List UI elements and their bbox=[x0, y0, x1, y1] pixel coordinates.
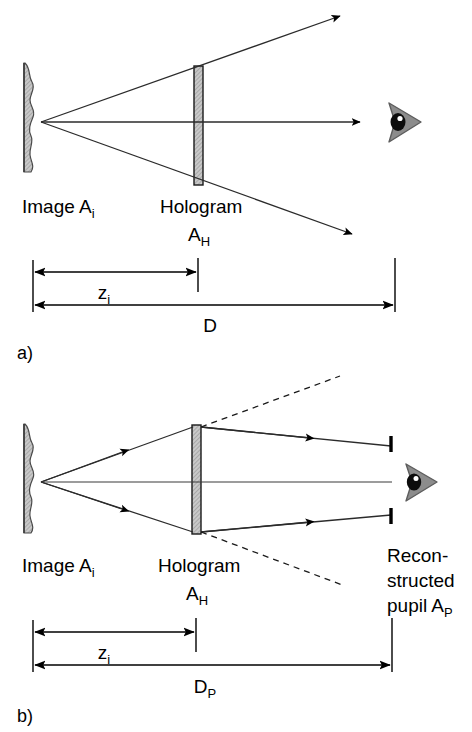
hologram-symbol-b: AH bbox=[186, 583, 208, 608]
dimension-zi-b: zi bbox=[33, 618, 196, 672]
hologram-symbol-a: AH bbox=[188, 224, 210, 249]
pupil-label-line3-b: pupil AP bbox=[387, 595, 453, 620]
diffuse-image-screen-a bbox=[24, 63, 34, 172]
upper-ray-out-arrow-b bbox=[201, 427, 310, 438]
lower-ray-in-arrow-b bbox=[41, 482, 125, 510]
hologram-label-a: Hologram bbox=[160, 196, 242, 217]
lower-ray-out-arrow-b bbox=[201, 522, 310, 532]
image-label-b: Image Ai bbox=[22, 555, 95, 580]
eye-icon-a bbox=[389, 103, 421, 142]
dimension-zi-a: zi bbox=[33, 258, 198, 312]
dimension-Dp-label-b: DP bbox=[194, 676, 216, 701]
hologram-label-b: Hologram bbox=[158, 555, 240, 576]
dimension-Dp-b: DP bbox=[35, 618, 392, 701]
dimension-zi-label-b: zi bbox=[98, 642, 111, 667]
pupil-label-line1-b: Recon- bbox=[387, 545, 448, 566]
dimension-D-label-a: D bbox=[203, 315, 217, 336]
upper-ray-a bbox=[41, 16, 340, 122]
pupil-label-line2-b: structed bbox=[387, 570, 455, 591]
dimension-zi-label-a: zi bbox=[98, 282, 111, 307]
dimension-D-a: D bbox=[35, 258, 395, 336]
image-label-a: Image Ai bbox=[22, 196, 95, 221]
dashed-extension-upper-b bbox=[201, 376, 340, 427]
optical-diagram-svg: Image Ai Hologram AH zi D bbox=[0, 0, 472, 732]
diffuse-image-screen-b bbox=[24, 424, 34, 533]
figure-root: Image Ai Hologram AH zi D bbox=[0, 0, 472, 732]
panel-b: Image Ai Hologram AH Recon- structed pup… bbox=[17, 376, 455, 726]
eye-icon-b bbox=[406, 464, 437, 501]
panel-caption-b: b) bbox=[17, 706, 33, 726]
panel-a: Image Ai Hologram AH zi D bbox=[17, 16, 421, 363]
panel-caption-a: a) bbox=[17, 343, 33, 363]
hologram-plate-b bbox=[192, 425, 201, 534]
upper-ray-in-arrow-b bbox=[41, 451, 125, 482]
hologram-plate-a bbox=[194, 66, 203, 185]
